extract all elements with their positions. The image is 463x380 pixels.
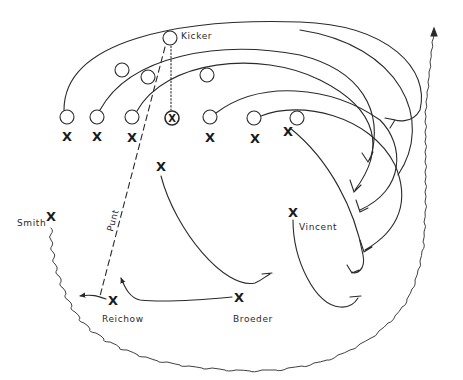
reichow-x: X [108,294,118,307]
broeder-label: Broeder [233,315,273,324]
route-vincent [293,220,361,307]
lineman-circle-6 [247,111,261,125]
lineman-circle-3 [125,110,139,124]
center-x-mark: X [168,113,176,124]
lineman-circle-5 [203,110,217,124]
route-lineman-2 [100,50,374,162]
broeder-x: X [234,291,244,304]
route-lineman-5 [216,91,397,212]
route-linebacker [161,176,272,284]
route-lineman-3 [137,63,373,192]
lineman-circle-2 [90,110,104,124]
return-arrowhead-icon [431,28,437,36]
defender-x-5: X [205,131,215,144]
back-circle-2 [141,70,155,84]
smith-x: X [46,210,56,223]
vincent-label: Vincent [299,223,337,232]
lineman-circle-1 [60,110,74,124]
linebacker-x: X [156,160,166,173]
route-broeder [121,278,232,301]
play-diagram: X [0,0,463,380]
defender-x-7: X [283,125,293,138]
smith-label: Smith [17,219,46,228]
back-circle-3 [200,68,214,82]
defender-x-3: X [127,131,137,144]
route-lineman-7 [290,128,364,273]
reichow-label: Reichow [102,315,144,324]
route-outside [300,30,412,175]
back-circle-1 [115,63,129,77]
defender-x-1: X [62,130,72,143]
defender-x-2: X [92,130,102,143]
kicker-circle [163,31,177,45]
vincent-x: X [288,206,298,219]
defender-x-6: X [250,132,260,145]
route-reichow [80,295,106,299]
kicker-label: Kicker [181,32,212,41]
